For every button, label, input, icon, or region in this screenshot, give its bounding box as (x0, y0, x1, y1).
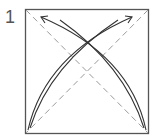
fold-diagram (0, 0, 156, 138)
